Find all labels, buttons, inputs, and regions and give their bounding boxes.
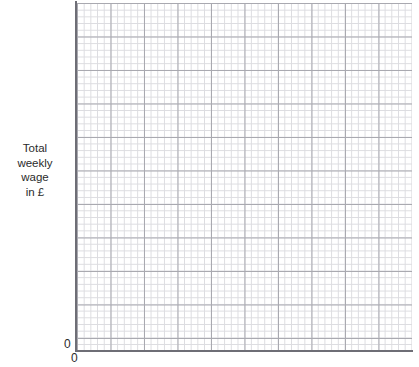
y-axis-title-line-1: Total xyxy=(2,141,68,156)
y-axis-line xyxy=(75,1,77,352)
y-axis-title-line-4: in £ xyxy=(2,185,68,200)
y-axis-title-line-3: wage xyxy=(2,170,68,185)
y-axis-origin-label: 0 xyxy=(64,338,71,350)
x-axis-origin-label: 0 xyxy=(71,352,78,364)
graph-paper-figure: Total weekly wage in £ 0 0 xyxy=(0,0,419,367)
plot-grid-area[interactable] xyxy=(77,3,412,351)
x-axis-line xyxy=(75,350,413,352)
y-axis-title-line-2: weekly xyxy=(2,156,68,171)
y-axis-title: Total weekly wage in £ xyxy=(2,141,68,199)
